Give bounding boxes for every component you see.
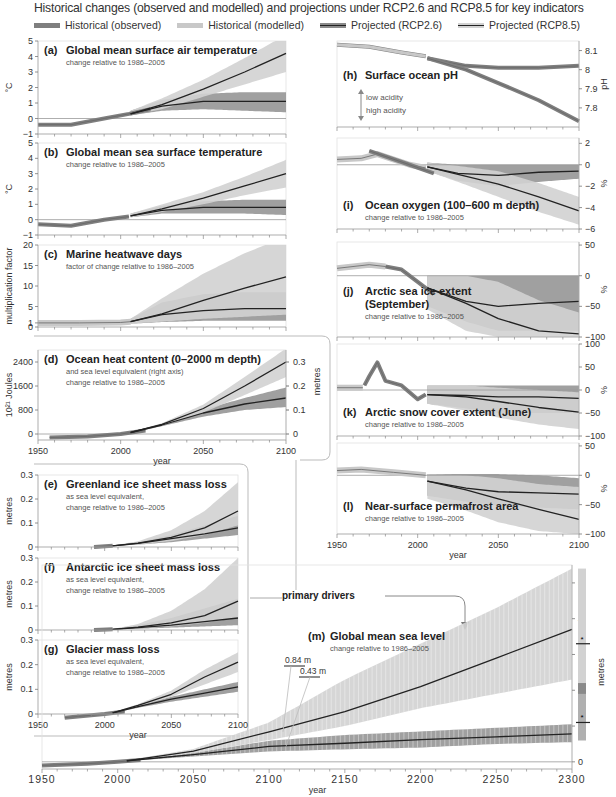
y-tick-label: 2 [585, 138, 590, 148]
panel-m: 01234519502000205021002150220022502300ye… [28, 565, 606, 795]
panel-letter: (l) [343, 500, 354, 512]
panel-letter: (k) [343, 406, 357, 418]
panel-title: Arctic sea ice extent [365, 285, 472, 297]
panel-subtitle: as sea level equivalent, [66, 657, 144, 666]
x-tick-label: 1950 [327, 540, 347, 550]
low-acidity-label: low acidity [366, 93, 403, 102]
y-axis-label: °C [4, 82, 14, 93]
y-tick-label: −50 [585, 500, 600, 510]
historical-line [38, 109, 150, 125]
x-tick-label: 2050 [161, 720, 181, 730]
y-axis-label: multiplication factor [4, 247, 14, 324]
median-asterisk: * [580, 635, 583, 644]
panel-g: 00.10.20.31950200020502100yearmetres(g)G… [4, 635, 248, 740]
panel-title: Ocean oxygen (100–600 m depth) [365, 199, 540, 211]
median-asterisk: * [580, 713, 583, 722]
y-tick-label: 0.1 [20, 601, 33, 611]
y-right-axis-label: metres [312, 367, 322, 395]
x-axis-label: year [309, 785, 327, 795]
y-tick-label: 0.3 [20, 470, 33, 480]
y-tick-label: 0 [28, 215, 33, 225]
y-right-tick-label: 0.2 [293, 381, 306, 391]
y-tick-label: 1 [28, 199, 33, 209]
x-tick-label: 2000 [408, 540, 428, 550]
panel-subtitle: and sea level equivalent (right axis) [66, 367, 184, 376]
y-tick-label: 2 [28, 184, 33, 194]
panel-subtitle: factor of change relative to 1986–2005 [66, 262, 194, 271]
y-tick-label: −6 [585, 224, 595, 234]
panel-letter: (e) [44, 478, 58, 490]
y-tick-label: 0.2 [20, 577, 33, 587]
y-tick-label: 5 [28, 302, 33, 312]
panel-l: −100−500501950200020502100year%(l)Near-s… [327, 441, 609, 560]
panel-b: −1012345°C(b)Global mean sea surface tem… [4, 138, 286, 240]
y-tick-label: 0.2 [20, 660, 33, 670]
y-tick-label: 4 [28, 153, 33, 163]
y-tick-label: 50 [585, 441, 595, 451]
y-tick-label: 8 [585, 65, 590, 75]
y-axis-label: 10²¹ Joules [4, 372, 14, 417]
panel-subtitle-2: change relative to 1986–2005 [66, 586, 165, 595]
figure-canvas: −1012345°C(a)Global mean surface air tem… [0, 0, 616, 797]
x-axis-label: year [129, 730, 147, 740]
panel-subtitle: change relative to 1986–2005 [365, 312, 464, 321]
y-tick-label: 800 [18, 405, 33, 415]
panel-letter: (h) [343, 69, 357, 81]
panel-subtitle: change relative to 1986–2005 [66, 58, 165, 67]
panel-title: Surface ocean pH [365, 69, 458, 81]
panel-letter: (d) [44, 353, 58, 365]
x-tick-label: 2200 [407, 773, 434, 785]
y-axis-label: metres [4, 580, 14, 608]
x-axis-label: year [153, 456, 171, 466]
panel-subtitle-2: change relative to 1986–2005 [66, 503, 165, 512]
y-axis-label: % [599, 386, 609, 394]
panel-title: Glacier mass loss [66, 643, 160, 655]
slr-label-rcp26: 0.43 m [300, 666, 326, 676]
slr-label-rcp85: 0.84 m [285, 655, 311, 665]
y-tick-label: 5 [28, 36, 33, 46]
y-tick-label: 2400 [13, 357, 33, 367]
y-tick-label: 0 [585, 271, 590, 281]
panel-letter: (c) [44, 248, 58, 260]
x-tick-label: 2150 [331, 773, 358, 785]
y-tick-label: −100 [585, 431, 605, 441]
panel-k: −100−50050100%(k)Arctic snow cover exten… [337, 339, 609, 441]
y-tick-label: −50 [585, 301, 600, 311]
y-tick-label: 100 [585, 339, 600, 349]
x-tick-label: 2300 [558, 773, 585, 785]
panel-letter: (i) [343, 199, 354, 211]
y-axis-label: metres [4, 663, 14, 691]
y-tick-label: 3 [28, 169, 33, 179]
x-tick-label: 1950 [28, 720, 48, 730]
y-tick-label: 5 [28, 138, 33, 148]
arrow-up-icon [358, 89, 364, 94]
y-axis-label: % [599, 484, 609, 492]
y-tick-label: 50 [585, 362, 595, 372]
panel-letter: (f) [44, 561, 55, 573]
y-right-tick-label: 0.3 [293, 357, 306, 367]
panel-h: 7.87.988.1pH(h)Surface ocean pHlow acidi… [337, 41, 609, 131]
panel-title: Ocean heat content (0–2000 m depth) [66, 353, 261, 365]
y-tick-label: 0 [585, 470, 590, 480]
y-tick-label: 0 [578, 757, 583, 767]
y-tick-label: 50 [585, 240, 595, 250]
panel-subtitle: as sea level equivalent, [66, 492, 144, 501]
y-tick-label: 1 [28, 98, 33, 108]
x-tick-label: 2000 [111, 446, 131, 456]
y-tick-label: 3 [28, 67, 33, 77]
panel-title-line2: (September) [365, 298, 430, 310]
y-tick-label: 0 [28, 429, 33, 439]
x-tick-label: 1950 [28, 773, 55, 785]
y-tick-label: 4 [28, 52, 33, 62]
x-tick-label: 2000 [104, 773, 131, 785]
panel-i: −6−4−202%(i)Ocean oxygen (100–600 m dept… [337, 138, 609, 234]
y-axis-label: % [599, 179, 609, 187]
x-tick-label: 1950 [28, 446, 48, 456]
panel-letter: (j) [343, 285, 354, 297]
high-acidity-label: high acidity [366, 106, 406, 115]
y-tick-label: 0.3 [20, 553, 33, 563]
y-tick-label: 8.1 [585, 46, 598, 56]
y-axis-label: metres [596, 658, 606, 686]
panel-c: 015101520multiplication factor(c)Marine … [4, 240, 286, 332]
panel-letter: (a) [44, 44, 58, 56]
